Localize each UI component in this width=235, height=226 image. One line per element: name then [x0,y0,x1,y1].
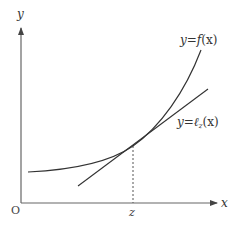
curve-f [28,50,201,172]
z-tick-label: z [128,206,135,219]
curve-f-label: y=f(x) [179,33,217,47]
tangent-line [78,89,208,186]
curve-f-label-prefix: y= [179,33,197,47]
tangent-label-prefix: y= [176,115,194,129]
x-axis-label: x [221,196,228,210]
y-axis-label: y [16,7,24,21]
origin-label: O [11,204,20,217]
curve-f-label-arg: (x) [201,33,217,47]
diagram-canvas: y x O z y=f(x) y=ℓz(x) [0,0,235,226]
tangent-label: y=ℓz(x) [176,115,219,130]
tangent-label-arg: (x) [203,115,219,129]
